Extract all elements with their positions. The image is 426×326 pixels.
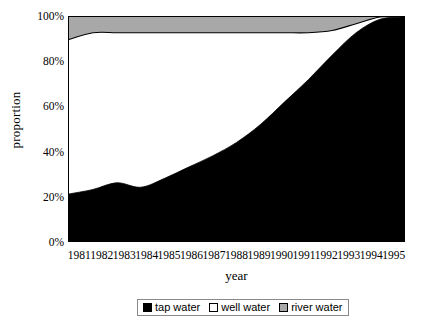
y-axis-tick-labels: 100%80%60%40%20%0% <box>0 0 64 326</box>
x-axis-tick-labels: 1981198219831984198519861987198819891990… <box>68 248 405 266</box>
legend-entry: well water <box>209 302 270 313</box>
chart-legend: tap waterwell waterriver water <box>137 299 349 316</box>
legend-label: river water <box>291 302 342 313</box>
y-tick-label: 100% <box>2 10 64 22</box>
series-layers <box>69 17 404 241</box>
y-tick-label: 0% <box>2 236 64 248</box>
x-tick-label: 1995 <box>374 248 414 262</box>
legend-label: tap water <box>155 302 200 313</box>
legend-swatch-icon <box>143 303 152 312</box>
x-axis-title: year <box>68 268 405 284</box>
legend-label: well water <box>221 302 270 313</box>
legend-entry: tap water <box>143 302 200 313</box>
legend-swatch-icon <box>279 303 288 312</box>
y-tick-label: 80% <box>2 55 64 67</box>
legend-swatch-icon <box>209 303 218 312</box>
legend-entry: river water <box>279 302 342 313</box>
y-tick-label: 60% <box>2 100 64 112</box>
y-tick-label: 20% <box>2 191 64 203</box>
stacked-area-chart: proportion 100%80%60%40%20%0% 1981198219… <box>0 0 426 326</box>
plot-svg <box>69 17 404 241</box>
plot-area <box>68 16 405 242</box>
y-tick-label: 40% <box>2 146 64 158</box>
